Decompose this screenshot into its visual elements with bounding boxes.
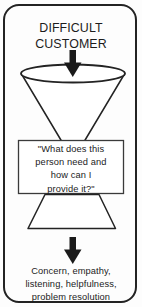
- question-box-text: "What does this person need and how can …: [19, 143, 123, 196]
- arrow-bottom-icon: [64, 237, 82, 264]
- upper-funnel-cone: [22, 74, 125, 141]
- lower-funnel-trapezoid: [28, 195, 116, 229]
- outcome-text: Concern, empathy, listening, helpfulness…: [6, 265, 136, 305]
- difficult-customer-heading: DIFFICULT CUSTOMER: [11, 21, 131, 52]
- diagram-canvas: DIFFICULT CUSTOMER "What does this perso…: [0, 0, 142, 307]
